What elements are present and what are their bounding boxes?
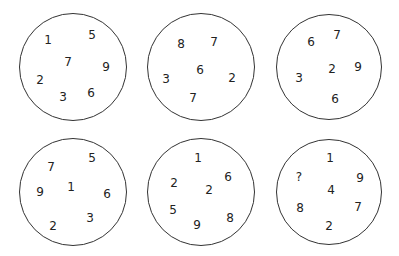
circle-number: 6 [103, 188, 111, 200]
number-circle-puzzle: 1579236876327672936751963212625891?94872 [0, 0, 399, 256]
circle-number: 7 [210, 36, 218, 48]
circle-number: 5 [169, 204, 177, 216]
circle-number: 9 [102, 61, 110, 73]
circle-number: 2 [36, 74, 44, 86]
circle-number: 5 [88, 152, 96, 164]
circle-number: 1 [67, 181, 75, 193]
circle-number: 2 [325, 220, 333, 232]
circle-number: 7 [64, 56, 72, 68]
circle-number: 1 [194, 152, 202, 164]
circle-number: 4 [327, 184, 335, 196]
circle-number: 7 [354, 201, 362, 213]
circle-number: 2 [170, 177, 178, 189]
circle-number: 9 [36, 186, 44, 198]
circle-number: 9 [354, 61, 362, 73]
circle-number: 2 [328, 63, 336, 75]
circle-number: 8 [296, 202, 304, 214]
circle-number: 5 [88, 29, 96, 41]
circle-number: 3 [162, 73, 170, 85]
circle-number: 6 [307, 36, 315, 48]
circle-number: 7 [189, 92, 197, 104]
circle-number: 2 [205, 184, 213, 196]
circle-number: 9 [193, 219, 201, 231]
puzzle-circle-1 [19, 13, 127, 121]
circle-number: 1 [44, 34, 52, 46]
circle-number: 3 [59, 91, 67, 103]
circle-number: 7 [333, 29, 341, 41]
circle-number: 3 [295, 72, 303, 84]
circle-number: 8 [226, 212, 234, 224]
circle-number: 6 [196, 64, 204, 76]
circle-number: 6 [331, 93, 339, 105]
unknown-number: ? [296, 171, 302, 183]
circle-number: 9 [356, 172, 364, 184]
circle-number: 1 [326, 152, 334, 164]
circle-number: 2 [228, 72, 236, 84]
circle-number: 6 [224, 171, 232, 183]
circle-number: 7 [47, 161, 55, 173]
circle-number: 2 [49, 220, 57, 232]
circle-number: 6 [87, 87, 95, 99]
circle-number: 8 [177, 38, 185, 50]
circle-number: 3 [86, 212, 94, 224]
